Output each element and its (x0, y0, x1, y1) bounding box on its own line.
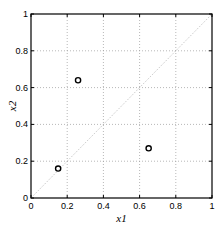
x-tick-label: 0.4 (97, 201, 110, 211)
data-point (56, 166, 61, 171)
y-tick-label: 0.8 (15, 46, 28, 56)
x-tick-label: 0 (28, 201, 33, 211)
y-axis-label: x2 (6, 100, 18, 112)
chart: 00.20.40.60.8100.20.40.60.81x1x2 (0, 0, 223, 229)
x-tick-label: 0.6 (133, 201, 146, 211)
x-tick-label: 1 (209, 201, 214, 211)
scatter-plot: 00.20.40.60.8100.20.40.60.81x1x2 (0, 0, 223, 229)
y-tick-label: 0 (23, 193, 28, 203)
axes-box (31, 14, 212, 198)
y-tick-label: 0.2 (15, 156, 28, 166)
diagonal-reference-line (31, 14, 212, 198)
y-tick-label: 0.4 (15, 119, 28, 129)
y-tick-label: 1 (23, 9, 28, 19)
x-tick-label: 0.8 (170, 201, 183, 211)
y-tick-label: 0.6 (15, 83, 28, 93)
x-tick-label: 0.2 (61, 201, 74, 211)
data-point (146, 146, 151, 151)
data-point (75, 78, 80, 83)
x-axis-label: x1 (115, 212, 126, 224)
